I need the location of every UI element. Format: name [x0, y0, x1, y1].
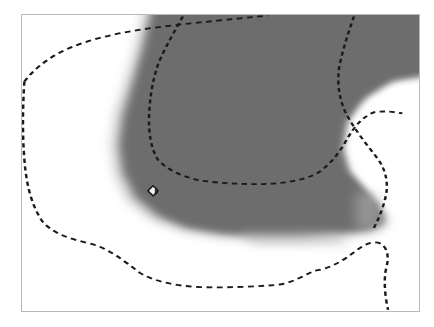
diamond-marker-icon — [147, 185, 160, 198]
figure-root — [0, 0, 434, 327]
station-marker[interactable] — [147, 185, 160, 198]
contour-overlay — [22, 15, 419, 311]
contour-outer-loop — [23, 82, 388, 310]
plot-frame — [21, 14, 420, 312]
contour-inner-main — [149, 16, 402, 184]
contour-outer-top — [24, 16, 268, 82]
contour-inner-upper-right — [338, 16, 387, 229]
